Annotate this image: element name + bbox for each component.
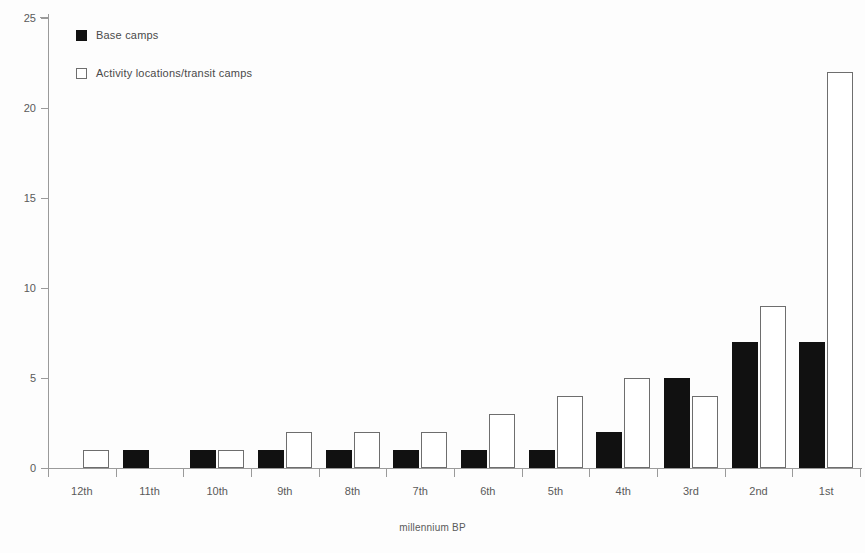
- x-axis-tick-label: 1st: [819, 486, 834, 497]
- legend-entry-base-camps: Base camps: [76, 28, 252, 42]
- x-axis-tick: [454, 469, 455, 477]
- bar-activity-locations-3rd: [692, 396, 718, 468]
- bar-base-camps-2nd: [732, 342, 758, 468]
- bar-base-camps-3rd: [664, 378, 690, 468]
- bar-base-camps-7th: [393, 450, 419, 468]
- x-axis-tick: [792, 469, 793, 477]
- x-axis-tick-label: 7th: [413, 486, 428, 497]
- legend-label-base-camps: Base camps: [96, 29, 159, 41]
- y-axis-tick-label: 0: [6, 463, 36, 474]
- y-axis-tick-label: 20: [6, 103, 36, 114]
- bar-activity-locations-7th: [421, 432, 447, 468]
- y-axis-tick-label: 25: [6, 13, 36, 24]
- bar-base-camps-4th: [596, 432, 622, 468]
- bar-activity-locations-2nd: [760, 306, 786, 468]
- bar-base-camps-5th: [529, 450, 555, 468]
- x-axis-tick-label: 6th: [480, 486, 495, 497]
- bar-activity-locations-10th: [218, 450, 244, 468]
- x-axis-tick: [386, 469, 387, 477]
- bar-base-camps-6th: [461, 450, 487, 468]
- legend-label-activity-locations: Activity locations/transit camps: [96, 67, 252, 79]
- x-axis-tick-label: 3rd: [683, 486, 699, 497]
- bar-activity-locations-8th: [354, 432, 380, 468]
- x-axis-tick: [319, 469, 320, 477]
- x-axis-tick-label: 9th: [277, 486, 292, 497]
- x-axis-tick: [657, 469, 658, 477]
- x-axis-title: millennium BP: [0, 522, 865, 533]
- bar-activity-locations-5th: [557, 396, 583, 468]
- legend-entry-activity-locations: Activity locations/transit camps: [76, 66, 252, 80]
- bar-activity-locations-4th: [624, 378, 650, 468]
- x-axis-tick: [725, 469, 726, 477]
- y-axis-tick-label: 10: [6, 283, 36, 294]
- x-axis-tick: [522, 469, 523, 477]
- bar-base-camps-11th: [123, 450, 149, 468]
- x-axis-tick: [116, 469, 117, 477]
- bar-base-camps-10th: [190, 450, 216, 468]
- x-axis-tick-label: 2nd: [749, 486, 767, 497]
- bar-base-camps-1st: [799, 342, 825, 468]
- x-axis-tick: [251, 469, 252, 477]
- y-axis-tick-label: 15: [6, 193, 36, 204]
- bar-activity-locations-1st: [827, 72, 853, 468]
- x-axis-tick-label: 8th: [345, 486, 360, 497]
- x-axis-tick: [860, 469, 861, 477]
- legend-swatch-outlined-white-square-icon: [76, 68, 87, 79]
- x-axis-tick-label: 10th: [206, 486, 227, 497]
- x-axis-tick: [183, 469, 184, 477]
- bar-base-camps-9th: [258, 450, 284, 468]
- bar-activity-locations-9th: [286, 432, 312, 468]
- bar-activity-locations-12th: [83, 450, 109, 468]
- x-axis-tick-label: 5th: [548, 486, 563, 497]
- bar-activity-locations-6th: [489, 414, 515, 468]
- bar-chart: 0510152025 12th11th10th9th8th7th6th5th4t…: [0, 0, 865, 553]
- bar-base-camps-8th: [326, 450, 352, 468]
- x-axis-tick-label: 4th: [616, 486, 631, 497]
- x-axis-tick-label: 11th: [139, 486, 160, 497]
- x-axis-tick-label: 12th: [71, 486, 92, 497]
- x-axis-tick: [589, 469, 590, 477]
- chart-legend: Base camps Activity locations/transit ca…: [76, 28, 252, 104]
- x-axis-line: [44, 468, 862, 469]
- y-axis-tick-label: 5: [6, 373, 36, 384]
- legend-swatch-filled-black-square-icon: [76, 30, 87, 41]
- x-axis-tick: [48, 469, 49, 477]
